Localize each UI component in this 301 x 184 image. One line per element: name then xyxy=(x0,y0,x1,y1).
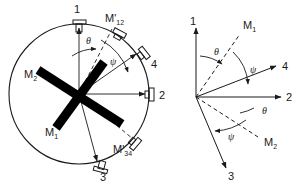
axis-3-line xyxy=(196,97,226,168)
axis-4-line xyxy=(196,66,276,97)
right-panel-group: 1 2 3 4 M1 M2 θ ψ θ ψ xyxy=(190,15,292,182)
detector-m12-label: M'12 xyxy=(105,12,124,26)
angle-theta-left-label: θ xyxy=(86,35,91,46)
arc-psi-upper xyxy=(233,52,248,84)
arc-theta-lower xyxy=(240,108,254,113)
detector-m12-symbol[interactable] xyxy=(111,28,127,42)
angle-theta-lower-label: θ xyxy=(262,105,267,116)
detector-3-label: 3 xyxy=(100,171,106,183)
detector-4-label: 4 xyxy=(151,58,157,70)
detector-2-label: 2 xyxy=(159,89,165,101)
angle-psi-upper-label: ψ xyxy=(250,64,257,75)
magnet-m2-label: M2 xyxy=(24,68,37,82)
left-panel-group: 1 2 3 4 M'12 M'34 M2 M1 θ ψ xyxy=(9,3,165,183)
vector-m1-label: M1 xyxy=(243,19,256,33)
axis-4-label: 4 xyxy=(282,60,288,72)
magnet-arm-m1 xyxy=(56,62,104,128)
magnet-cross xyxy=(38,62,122,128)
vector-m2-label: M2 xyxy=(264,136,277,150)
detector-2-symbol[interactable] xyxy=(145,88,154,101)
detector-m34-label: M'34 xyxy=(113,143,132,157)
axis-3-label: 3 xyxy=(228,170,234,182)
angle-psi-left-label: ψ xyxy=(110,56,117,67)
angle-theta-upper-label: θ xyxy=(214,46,219,57)
vector-m2-line xyxy=(196,97,258,137)
detector-4-symbol[interactable] xyxy=(135,46,150,62)
angle-psi-lower-label: ψ xyxy=(228,131,235,142)
detector-1-symbol[interactable] xyxy=(73,20,86,32)
schematic-svg: 1 2 3 4 M'12 M'34 M2 M1 θ ψ xyxy=(0,0,301,184)
axis-2-label: 2 xyxy=(286,91,292,103)
vector-m1-line xyxy=(196,34,240,97)
arc-psi-lower xyxy=(215,120,246,131)
arc-theta-upper xyxy=(200,56,222,64)
detector-1-label: 1 xyxy=(74,3,80,15)
axis-1-label: 1 xyxy=(190,15,196,27)
figure-canvas: 1 2 3 4 M'12 M'34 M2 M1 θ ψ xyxy=(0,0,301,184)
arc-theta-left xyxy=(72,49,96,56)
